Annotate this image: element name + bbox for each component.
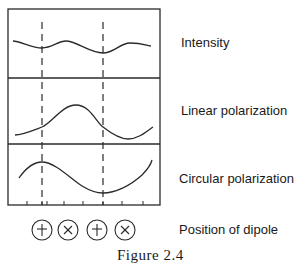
circular-polarization-label: Circular polarization bbox=[179, 171, 294, 186]
intensity-curve bbox=[13, 41, 151, 53]
dipole-plus-icon bbox=[32, 220, 52, 240]
dipole-position-label: Position of dipole bbox=[179, 222, 278, 237]
figure-caption: Figure 2.4 bbox=[117, 247, 184, 264]
linear-polarization-curve bbox=[15, 105, 153, 139]
dipole-symbols bbox=[32, 220, 135, 240]
linear-polarization-label: Linear polarization bbox=[181, 103, 287, 118]
dipole-plus-icon bbox=[87, 220, 107, 240]
dipole-cross-icon bbox=[58, 220, 78, 240]
intensity-label: Intensity bbox=[181, 35, 229, 50]
dipole-cross-icon bbox=[115, 220, 135, 240]
panel-dividers bbox=[8, 78, 160, 144]
circular-polarization-curve bbox=[19, 160, 152, 193]
dipole-position-dashed-lines bbox=[42, 22, 103, 205]
